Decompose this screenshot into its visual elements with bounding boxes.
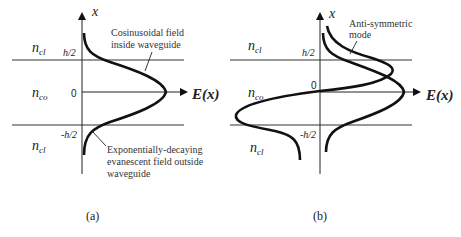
field-curve-symmetric — [84, 33, 166, 155]
tick-h-half: h/2 — [302, 47, 315, 58]
region-cladding-top: ncl — [248, 38, 262, 55]
annotation-antisymmetric-line2: mode — [349, 29, 372, 40]
e-axis-label: E(x) — [191, 86, 220, 103]
annotation-evanescent-line1: Exponentially-decaying — [107, 144, 203, 155]
tick-zero: 0 — [71, 88, 77, 99]
region-cladding-bottom: ncl — [250, 140, 264, 157]
caption-a: (a) — [86, 209, 99, 223]
caption-b: (b) — [313, 209, 327, 223]
tick-zero: 0 — [311, 80, 317, 91]
x-axis-label: x — [328, 6, 336, 21]
region-cladding-top: ncl — [32, 40, 46, 57]
panel-a: x E(x) h/2 0 -h/2 ncl nco ncl Cosinusoid… — [12, 4, 220, 223]
tick-h-half: h/2 — [63, 47, 76, 58]
region-cladding-bottom: ncl — [32, 138, 46, 155]
waveguide-mode-diagram: x E(x) h/2 0 -h/2 ncl nco ncl Cosinusoid… — [0, 0, 461, 237]
annotation-leader-bottom — [92, 131, 106, 146]
region-core: nco — [248, 85, 264, 102]
annotation-cosinusoidal-line2: inside waveguide — [111, 39, 181, 50]
region-core: nco — [32, 85, 48, 102]
annotation-leader-top — [145, 52, 152, 71]
tick-neg-h-half: -h/2 — [61, 129, 77, 140]
x-axis-label: x — [91, 4, 99, 19]
annotation-cosinusoidal-line1: Cosinusoidal field — [111, 27, 184, 38]
tick-neg-h-half: -h/2 — [300, 129, 316, 140]
e-axis-label: E(x) — [425, 87, 454, 104]
annotation-evanescent-line3: waveguide — [107, 168, 151, 179]
annotation-antisymmetric-line1: Anti-symmetric — [349, 18, 413, 29]
annotation-evanescent-line2: evanescent field outside — [107, 156, 204, 167]
panel-b: x E(x) h/2 0 -h/2 ncl nco ncl Anti-symme… — [230, 6, 454, 223]
